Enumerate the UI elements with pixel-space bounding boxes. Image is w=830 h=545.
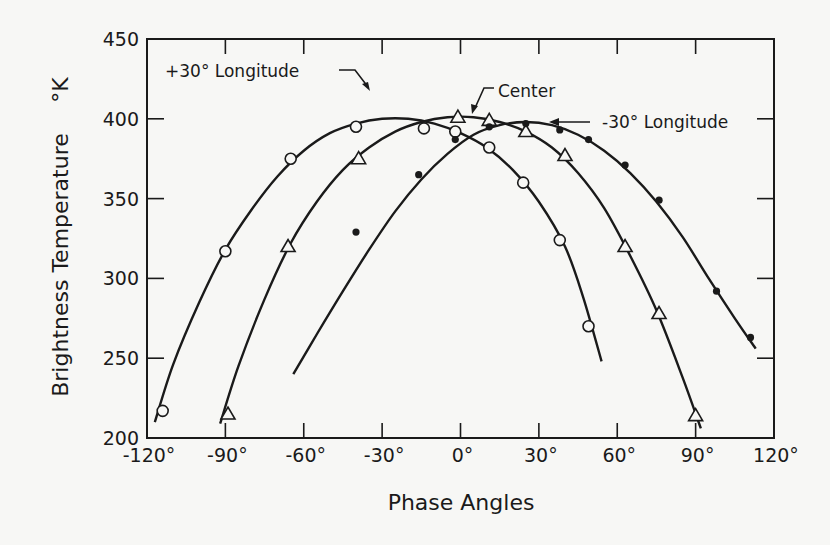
open-circle-marker [554, 235, 565, 246]
open-circle-marker [484, 142, 495, 153]
phase-angle-chart: -120°-90°-60°-30°0°30°60°90°120°20025030… [0, 0, 830, 545]
y-tick-label: 350 [103, 188, 139, 210]
filled-dot-marker [486, 123, 493, 130]
y-tick-label: 300 [103, 267, 139, 289]
annotation-center: Center [498, 81, 555, 101]
filled-dot-marker [621, 161, 628, 168]
annotation-plus30-longitude: +30° Longitude [165, 61, 299, 81]
x-tick-label: -30° [364, 444, 405, 466]
open-circle-marker [351, 121, 362, 132]
filled-dot-marker [452, 136, 459, 143]
x-tick-label: 120° [753, 444, 799, 466]
x-tick-label: -90° [207, 444, 248, 466]
y-axis-unit: °K [48, 77, 73, 103]
x-tick-label: 90° [681, 444, 715, 466]
open-circle-marker [518, 177, 529, 188]
y-tick-label: 250 [103, 347, 139, 369]
x-tick-label: -60° [285, 444, 326, 466]
open-circle-marker [418, 123, 429, 134]
x-tick-label: 60° [602, 444, 636, 466]
filled-dot-marker [585, 136, 592, 143]
open-circle-marker [220, 246, 231, 257]
filled-dot-marker [352, 229, 359, 236]
filled-dot-marker [655, 197, 662, 204]
y-tick-label: 200 [103, 427, 139, 449]
filled-dot-marker [415, 171, 422, 178]
annotation-minus30-longitude: -30° Longitude [602, 112, 728, 132]
filled-dot-marker [522, 120, 529, 127]
open-circle-marker [157, 405, 168, 416]
y-axis-title-text: Brightness Temperature [48, 133, 73, 397]
x-tick-label: 0° [452, 444, 474, 466]
x-axis-title: Phase Angles [388, 490, 535, 515]
filled-dot-marker [713, 288, 720, 295]
filled-dot-marker [747, 334, 754, 341]
open-circle-marker [450, 126, 461, 137]
filled-dot-marker [556, 126, 563, 133]
y-tick-label: 450 [103, 28, 139, 50]
open-circle-marker [285, 153, 296, 164]
x-tick-label: 30° [524, 444, 558, 466]
open-circle-marker [583, 321, 594, 332]
y-tick-label: 400 [103, 108, 139, 130]
